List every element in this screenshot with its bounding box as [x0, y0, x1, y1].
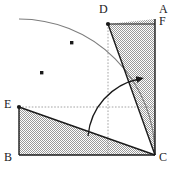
geometry-diagram: A F D E B C [0, 0, 173, 170]
arc-point-1-marker [40, 71, 43, 74]
vertex-label-c: C [159, 151, 167, 163]
hatched-regions [19, 19, 155, 155]
arc-point-2-marker [70, 41, 73, 44]
vertex-label-d: D [99, 3, 108, 15]
vertex-dot-e [17, 105, 21, 109]
vertex-label-b: B [4, 151, 12, 163]
vertex-dots [17, 22, 110, 109]
geometry-canvas [0, 0, 173, 170]
vertex-label-e: E [4, 98, 11, 110]
vertex-label-f: F [159, 15, 166, 27]
vertex-dot-d [106, 22, 110, 26]
arc-point-markers [40, 41, 73, 74]
